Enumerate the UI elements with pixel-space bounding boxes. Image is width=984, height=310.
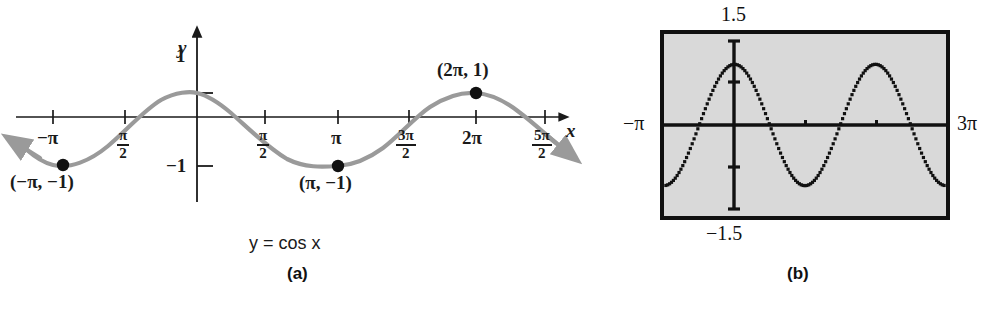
calculator-screen: [660, 30, 950, 220]
x-tick-label-2pi: 2π: [462, 128, 482, 147]
fraction-numerator: 3π: [396, 128, 416, 143]
fraction-numerator: 5π: [532, 128, 552, 143]
x-tick-label-pi-over-2-left: π 2: [117, 128, 129, 161]
panel-a-svg: [0, 0, 620, 310]
fraction-numerator: π: [117, 128, 129, 143]
panel-b-caption: (b): [787, 264, 809, 284]
y-axis-ticks: [197, 93, 213, 166]
x-tick-label-5pi-over-2: 5π 2: [532, 128, 552, 161]
calc-label-left: −π: [623, 112, 644, 135]
x-tick-label-3pi-over-2: 3π 2: [396, 128, 416, 161]
figure-root: y x 1 −1 −π π 2 π 2 π 3π 2 2π 5π 2: [0, 0, 984, 310]
equation-y-equals-cos-x: y = cos x: [249, 233, 321, 254]
panel-b-calculator-view: 1.5 −1.5 −π 3π (b): [620, 0, 984, 310]
point-label-pi-minus-1: (π, −1): [299, 173, 352, 192]
calc-label-top: 1.5: [721, 3, 746, 26]
panel-a-caption: (a): [287, 264, 308, 284]
x-axis-label: x: [566, 121, 576, 140]
point-label-minus-pi-minus-1: (−π, −1): [10, 172, 74, 191]
fraction-denominator: 2: [257, 146, 269, 161]
fraction-numerator: π: [257, 128, 269, 143]
panel-a-cosine-graph: y x 1 −1 −π π 2 π 2 π 3π 2 2π 5π 2: [0, 0, 620, 310]
x-tick-label-pi: π: [331, 128, 341, 147]
calculator-screen-svg: [664, 34, 946, 216]
x-tick-label-minus-pi: −π: [37, 128, 58, 147]
y-tick-label-minus-1: −1: [166, 156, 186, 175]
point-pi: [332, 160, 344, 172]
y-tick-label-1: 1: [176, 46, 186, 65]
fraction-denominator: 2: [117, 146, 129, 161]
calc-label-bottom: −1.5: [706, 222, 742, 245]
fraction-denominator: 2: [396, 146, 416, 161]
point-2pi: [470, 87, 482, 99]
x-tick-label-pi-over-2-right: π 2: [257, 128, 269, 161]
calc-label-right: 3π: [957, 112, 977, 135]
point-label-2pi-1: (2π, 1): [437, 60, 489, 79]
point-minus-pi: [57, 159, 69, 171]
fraction-denominator: 2: [532, 146, 552, 161]
